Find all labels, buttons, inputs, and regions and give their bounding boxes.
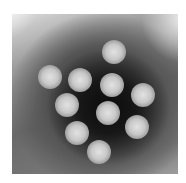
virus-particle bbox=[100, 73, 124, 97]
virus-particle bbox=[87, 140, 111, 164]
virus-particle bbox=[125, 115, 149, 139]
virus-particle bbox=[55, 93, 79, 117]
virus-particle bbox=[38, 65, 62, 89]
virus-particle bbox=[68, 68, 92, 92]
virus-particle bbox=[102, 40, 126, 64]
virus-particle bbox=[96, 101, 120, 125]
virus-particle bbox=[131, 83, 155, 107]
virus-particle bbox=[65, 121, 89, 145]
